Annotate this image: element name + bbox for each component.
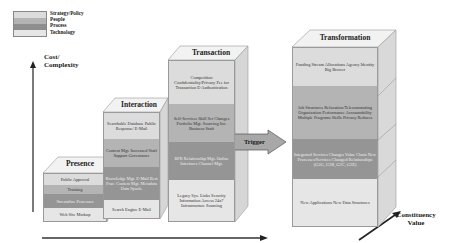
z-axis-label: Constituency Value xyxy=(388,212,444,227)
segment-process: BPR Relationship Mgt. Online Interfaces … xyxy=(169,142,234,180)
y-axis-label-line2: Complexity xyxy=(44,62,79,70)
y-axis-label: Cost/ Complexity xyxy=(44,54,79,69)
segment-process: Integrated Services Changes Value Chain … xyxy=(293,139,377,179)
segment-technology: New Applications New Data Structures xyxy=(293,179,377,226)
segment-technology: Legacy Sys. Links Security Information A… xyxy=(169,180,234,221)
segment-technology: Search Engine E-Mail xyxy=(104,200,159,218)
trigger-label: Trigger xyxy=(244,138,265,145)
segment-strategy: Competition Confidentiality/Privacy Fee … xyxy=(169,61,234,104)
segment-people: Self-Services Skill Set Changes Portfoli… xyxy=(169,104,234,142)
x-axis-arrow-icon xyxy=(260,235,268,241)
segment-process: Streamline Processes xyxy=(44,194,106,208)
segment-strategy: Public Approval xyxy=(44,174,106,185)
segment-people: Job Structures Relocation/Telecommuting … xyxy=(293,86,377,139)
stage-title-transaction: Transaction xyxy=(180,48,242,57)
segment-people: Content Mgt. Increased Staff Support Gov… xyxy=(104,139,159,167)
stage-title-transformation: Transformation xyxy=(305,33,385,42)
z-axis-label-line2: Value xyxy=(388,220,444,228)
segment-process: Knowledge Mgt. E-Mail Best Prac. Content… xyxy=(104,167,159,200)
segment-technology: Web Site Markup xyxy=(44,208,106,221)
y-axis-arrow-icon xyxy=(30,61,36,68)
segment-people: Training xyxy=(44,185,106,194)
segment-strategy: Searchable Database Public Response/ E-M… xyxy=(104,113,159,139)
segment-strategy: Funding Stream Allocations Agency Identi… xyxy=(293,48,377,86)
stage-title-presence: Presence xyxy=(52,159,108,168)
stage-title-interaction: Interaction xyxy=(112,100,166,109)
